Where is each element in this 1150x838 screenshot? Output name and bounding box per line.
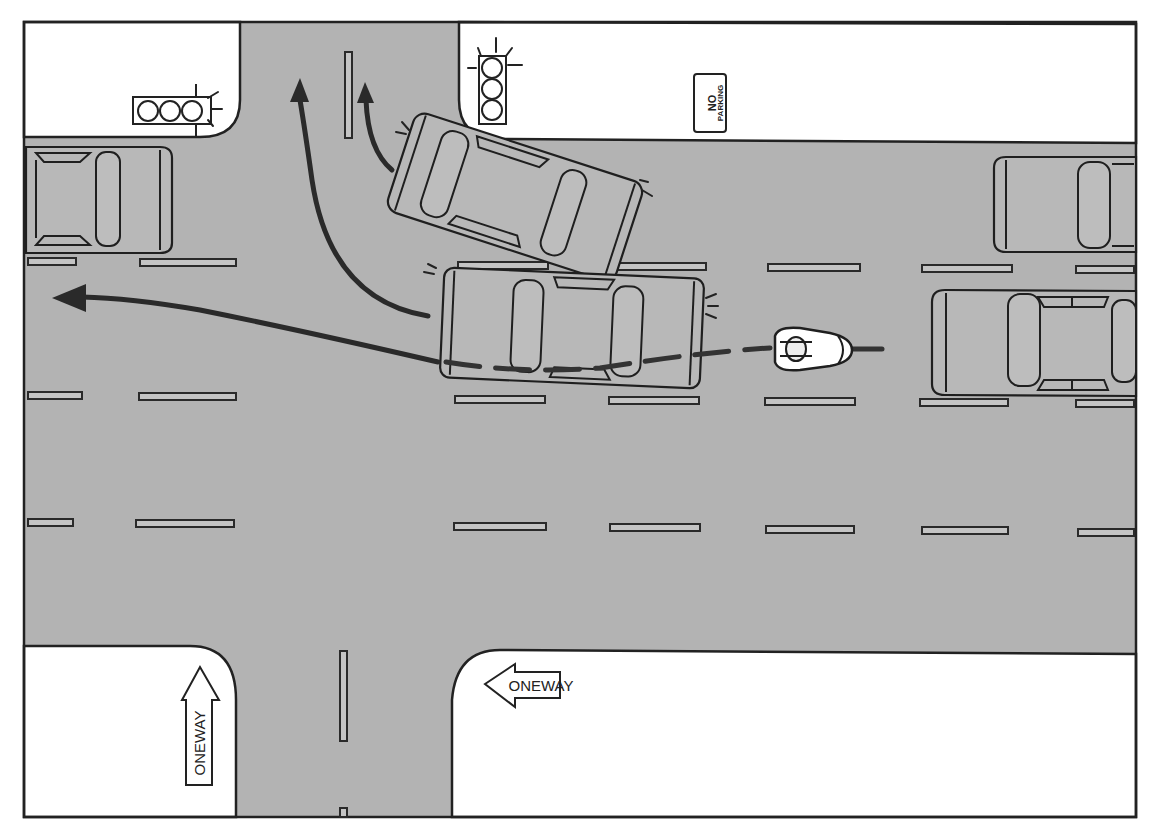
one-way-vertical-text: ONEWAY (191, 710, 208, 775)
sidewalk-top-right (459, 22, 1136, 143)
parked-car-right-top (994, 157, 1136, 252)
no-parking-line2: PARKING (716, 85, 725, 121)
lane-marking-vertical-top (345, 52, 352, 138)
lane-marking-vertical-bottom (340, 651, 347, 741)
one-way-horizontal-text: ONEWAY (508, 677, 573, 694)
parked-car-left (26, 147, 172, 253)
car-right-lane (932, 290, 1136, 396)
no-parking-sign: NO PARKING (694, 74, 726, 132)
lane-marking-vertical-stub (340, 808, 347, 817)
intersection-diagram: NO PARKING ONEWAY ONEWAY (0, 0, 1150, 838)
